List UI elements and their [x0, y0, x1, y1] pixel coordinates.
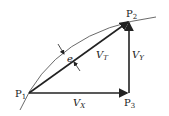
error-arrow-top: [58, 44, 64, 54]
label-p3: P3: [124, 97, 135, 110]
label-vx: VX: [73, 97, 86, 110]
label-vt: VT: [96, 49, 109, 62]
label-p2: P2: [126, 8, 137, 21]
vector-diagram: P1 P2 P3 VT VX VY e: [0, 0, 169, 116]
label-p1: P1: [15, 88, 26, 101]
error-arrow-bottom: [74, 62, 80, 71]
label-vy: VY: [132, 49, 145, 62]
vector-vt: [29, 22, 128, 93]
label-error: e: [67, 53, 73, 64]
arc-curve: [20, 17, 156, 110]
